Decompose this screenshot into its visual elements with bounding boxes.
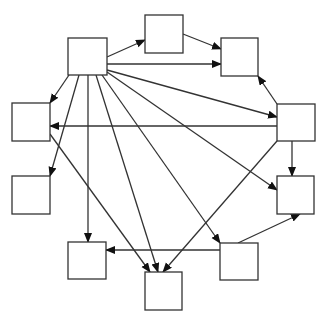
node-box-f <box>12 176 50 214</box>
edge-a-to-h <box>102 75 220 243</box>
node-box-e <box>12 103 50 141</box>
node-box-d <box>277 104 315 141</box>
node-box-j <box>145 272 182 310</box>
edge-h-to-g <box>238 214 300 243</box>
edge-d-to-c <box>258 76 277 104</box>
diagram-canvas <box>0 0 324 320</box>
node-box-i <box>68 242 106 279</box>
directed-graph <box>0 0 324 320</box>
node-box-b <box>145 15 183 53</box>
edge-a-to-b <box>107 40 145 57</box>
edge-a-to-d <box>107 70 277 117</box>
node-box-c <box>221 38 258 76</box>
node-box-g <box>277 176 314 214</box>
node-box-h <box>220 243 258 280</box>
edge-b-to-c <box>183 34 221 49</box>
edge-a-to-e <box>50 75 69 103</box>
node-box-a <box>68 38 107 75</box>
edge-a-to-g <box>107 72 277 190</box>
